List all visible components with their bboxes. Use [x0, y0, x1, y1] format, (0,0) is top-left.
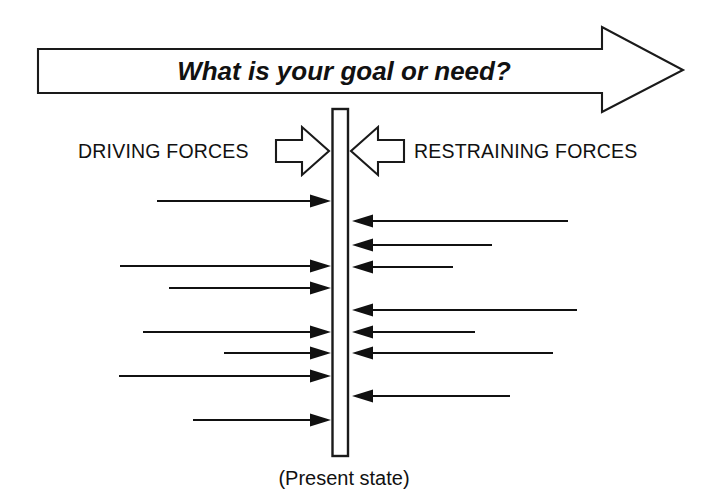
restraining-arrow-2-head	[352, 239, 373, 252]
restraining-arrow-4-head	[352, 304, 373, 317]
restraining-forces-group: RESTRAINING FORCES	[351, 127, 638, 175]
driving-arrow-5-head	[310, 347, 331, 360]
restraining-arrow-7-head	[352, 390, 373, 403]
driving-forces-group: DRIVING FORCES	[78, 127, 329, 175]
driving-force-arrows	[119, 195, 331, 427]
goal-question-text: What is your goal or need?	[177, 56, 511, 86]
driving-arrow-7-head	[310, 414, 331, 427]
restraining-arrow-1-head	[352, 215, 373, 228]
left-hollow-arrow-icon	[351, 127, 404, 175]
present-state-caption: (Present state)	[278, 467, 409, 489]
force-field-diagram: What is your goal or need? DRIVING FORCE…	[0, 0, 722, 503]
driving-arrow-3-head	[310, 282, 331, 295]
driving-arrow-6-head	[310, 370, 331, 383]
restraining-arrow-5-head	[352, 326, 373, 339]
restraining-arrow-6-head	[352, 347, 373, 360]
driving-arrow-2-head	[310, 260, 331, 273]
goal-banner-arrow: What is your goal or need?	[38, 27, 683, 112]
restraining-forces-label: RESTRAINING FORCES	[414, 140, 638, 162]
restraining-force-arrows	[352, 215, 577, 403]
restraining-arrow-3-head	[352, 261, 373, 274]
right-hollow-arrow-icon	[276, 127, 329, 175]
diagram-canvas: What is your goal or need? DRIVING FORCE…	[0, 0, 722, 503]
driving-arrow-4-head	[310, 326, 331, 339]
present-state-bar	[333, 109, 349, 456]
driving-arrow-1-head	[310, 195, 331, 208]
driving-forces-label: DRIVING FORCES	[78, 140, 249, 162]
